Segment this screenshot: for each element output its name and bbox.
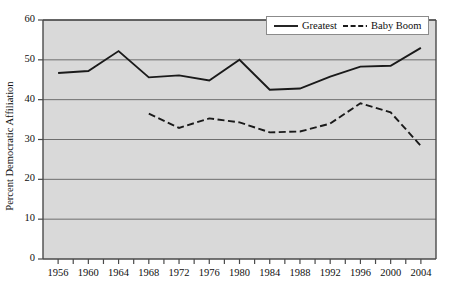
solid-line-icon [274,22,298,30]
chart-container: Percent Democratic Affiliation 010203040… [0,0,450,292]
dashed-line-icon [343,22,367,30]
legend-entry: Greatest [274,20,337,31]
legend-label: Baby Boom [371,20,421,31]
legend-entry: Baby Boom [343,20,421,31]
chart-legend: GreatestBaby Boom [266,16,429,35]
legend-label: Greatest [302,20,337,31]
plot-area [0,0,450,292]
